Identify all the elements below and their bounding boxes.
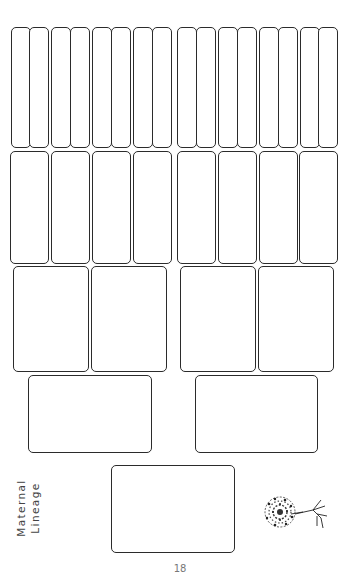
- ancestor-box-g4-6[interactable]: [218, 151, 257, 264]
- ancestor-box-g1-1[interactable]: [111, 465, 235, 553]
- ancestor-box-g4-7[interactable]: [259, 151, 298, 264]
- ancestor-box-g5-3[interactable]: [51, 27, 71, 148]
- ancestor-box-g5-9[interactable]: [177, 27, 197, 148]
- ancestor-box-g5-1[interactable]: [11, 27, 31, 148]
- ancestor-box-g5-7[interactable]: [133, 27, 153, 148]
- ancestor-box-g3-2[interactable]: [91, 266, 167, 372]
- ancestor-box-g4-3[interactable]: [92, 151, 131, 264]
- ancestor-box-g4-2[interactable]: [51, 151, 90, 264]
- ancestor-box-g5-5[interactable]: [92, 27, 112, 148]
- ancestor-box-g3-4[interactable]: [258, 266, 334, 372]
- ancestor-box-g5-10[interactable]: [196, 27, 216, 148]
- ancestor-box-g4-8[interactable]: [299, 151, 338, 264]
- ancestor-box-g5-11[interactable]: [218, 27, 238, 148]
- ancestor-box-g5-15[interactable]: [300, 27, 320, 148]
- ancestor-box-g5-12[interactable]: [237, 27, 257, 148]
- ancestor-box-g5-13[interactable]: [259, 27, 279, 148]
- page-number: 18: [160, 563, 200, 573]
- ancestor-box-g5-2[interactable]: [29, 27, 49, 148]
- maternal-lineage-label: Maternal Lineage: [14, 470, 54, 546]
- ancestor-box-g4-1[interactable]: [10, 151, 49, 264]
- ancestor-box-g4-5[interactable]: [177, 151, 216, 264]
- ancestor-box-g3-1[interactable]: [13, 266, 89, 372]
- ancestor-box-g5-14[interactable]: [278, 27, 298, 148]
- ancestor-box-g5-4[interactable]: [70, 27, 90, 148]
- ancestor-box-g2-2[interactable]: [195, 375, 318, 453]
- ancestor-box-g5-6[interactable]: [111, 27, 131, 148]
- label-line-1: Maternal: [14, 470, 28, 546]
- ancestor-box-g5-16[interactable]: [318, 27, 338, 148]
- tree-icon: [255, 482, 335, 542]
- ancestor-box-g3-3[interactable]: [180, 266, 256, 372]
- ancestor-box-g5-8[interactable]: [152, 27, 172, 148]
- label-line-2: Lineage: [28, 470, 42, 546]
- ancestor-box-g2-1[interactable]: [28, 375, 152, 453]
- ancestor-box-g4-4[interactable]: [133, 151, 172, 264]
